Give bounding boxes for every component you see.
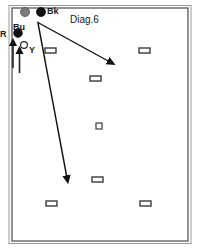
page-title: Diag.6: [70, 14, 99, 25]
player-marker-bk[interactable]: [36, 7, 45, 16]
label-bk: Bk: [47, 6, 59, 16]
field-marker[interactable]: [45, 48, 56, 53]
arrow-to-lower-right: [37, 22, 110, 62]
player-marker-y[interactable]: [21, 42, 28, 49]
arrow-to-lower-left: [38, 23, 67, 178]
field-marker[interactable]: [90, 76, 101, 81]
player-marker-bu[interactable]: [20, 7, 29, 16]
label-y: Y: [29, 45, 35, 55]
label-r: R: [0, 29, 7, 39]
field-marker-small[interactable]: [96, 123, 102, 129]
label-bu: Bu: [13, 22, 25, 32]
field-marker[interactable]: [46, 201, 57, 206]
field-marker[interactable]: [140, 201, 151, 206]
tactical-diagram: Diag.6 Bu Bk R Y: [0, 0, 199, 249]
field-marker[interactable]: [139, 48, 150, 53]
diagram-canvas: Diag.6 Bu Bk R Y: [0, 0, 199, 249]
field-marker[interactable]: [92, 177, 103, 182]
